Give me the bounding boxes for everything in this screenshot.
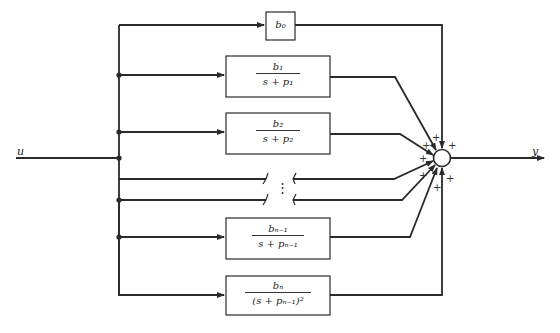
bn-1-denominator: s + pₙ₋₁ — [258, 236, 298, 249]
ellipsis-icon: ⋮ — [276, 181, 289, 194]
b1-numerator: b₁ — [271, 61, 285, 73]
block-b1-transfer-function: b₁ s + p₁ — [226, 61, 330, 87]
b2-numerator: b₂ — [271, 118, 285, 130]
plus-sign: + — [432, 133, 440, 143]
block-bn-transfer-function: bₙ (s + pₙ₋₁)² — [226, 280, 330, 306]
bn-denominator: (s + pₙ₋₁)² — [252, 293, 303, 306]
b0-numerator: b₀ — [273, 19, 287, 31]
bn-1-numerator: bₙ₋₁ — [266, 223, 290, 235]
branch-b2-out — [330, 134, 433, 155]
block-b2-transfer-function: b₂ s + p₂ — [226, 118, 330, 144]
branch-bn-out — [330, 168, 442, 295]
branch-bn-in — [119, 200, 224, 295]
plus-sign: + — [419, 171, 427, 181]
input-label-u: u — [17, 146, 24, 157]
plus-sign: + — [433, 183, 441, 193]
plus-sign: + — [419, 154, 427, 164]
output-label-y: y — [532, 146, 538, 157]
block-bn-1-transfer-function: bₙ₋₁ s + pₙ₋₁ — [226, 223, 330, 249]
plus-sign: + — [448, 141, 456, 151]
b1-denominator: s + p₁ — [263, 74, 293, 87]
b2-denominator: s + p₂ — [263, 131, 293, 144]
bn-numerator: bₙ — [271, 280, 285, 292]
block-b0-label: b₀ — [266, 19, 295, 31]
branch-b1-out — [330, 77, 436, 150]
broken-branch-1-right — [293, 161, 433, 179]
summing-junction — [434, 150, 451, 167]
plus-sign: + — [446, 174, 454, 184]
plus-sign: + — [422, 141, 430, 151]
